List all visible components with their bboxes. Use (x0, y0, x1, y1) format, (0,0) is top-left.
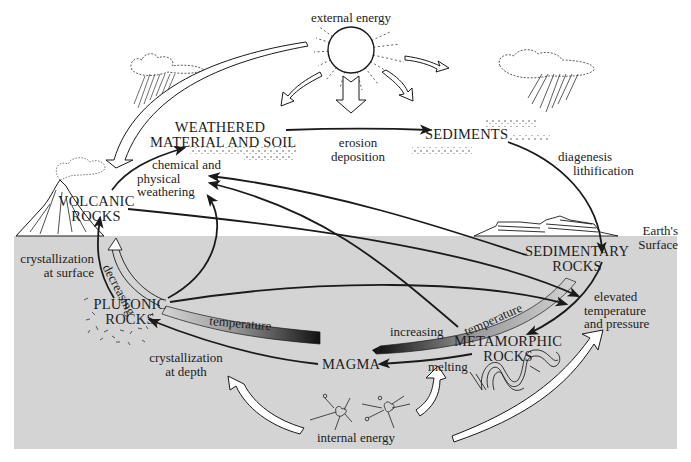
weathering-label-line3: weathering (137, 185, 221, 199)
cryst-depth-line2: at depth (140, 365, 232, 379)
diagenesis-label: diagenesis (558, 150, 634, 164)
node-sedimentary-rocks: SEDIMENTARY ROCKS (520, 244, 634, 274)
cryst-surface-line1: crystallization (12, 252, 94, 266)
node-plutonic-rocks: PLUTONIC ROCKS (92, 297, 168, 327)
plutonic-label-line1: PLUTONIC (92, 297, 168, 312)
elevated-line3: and pressure (584, 317, 649, 331)
diagenesis-lithification-label: diagenesis lithification (558, 150, 634, 177)
sun-arrow-far-right (405, 56, 449, 72)
crystallization-depth-label: crystallization at depth (140, 351, 232, 378)
elevated-conditions-label: elevated temperature and pressure (584, 290, 649, 331)
sedimentary-label-line2: ROCKS (520, 259, 634, 274)
weathering-label-line1: chemical and (137, 158, 221, 172)
sun-arrow-left (281, 72, 322, 106)
arrow-weathered-to-sediments (286, 129, 430, 131)
erosion-deposition-label: erosion deposition (318, 136, 398, 163)
lithification-label: lithification (558, 164, 634, 178)
increasing-label: increasing (390, 325, 443, 339)
weathered-label-line1: WEATHERED (150, 120, 290, 135)
weathering-label-line2: physical (137, 172, 221, 186)
sun-arrow-right (382, 70, 413, 101)
strata-icon (474, 216, 618, 236)
node-sediments: SEDIMENTS (425, 127, 508, 142)
sedimentary-label-line1: SEDIMENTARY (520, 244, 634, 259)
elevated-line2: temperature (584, 304, 649, 318)
crystallization-surface-label: crystallization at surface (12, 252, 94, 279)
sun-arrow-down (336, 76, 366, 113)
volcanic-label-line1: VOLCANIC (58, 194, 134, 209)
cloud-right-icon (499, 50, 594, 112)
earths-surface-line1: Earth's (620, 224, 678, 238)
node-weathered-material: WEATHERED MATERIAL AND SOIL (150, 120, 290, 150)
node-volcanic-rocks: VOLCANIC ROCKS (58, 194, 134, 224)
weathered-label-line2: MATERIAL AND SOIL (150, 135, 290, 150)
melting-label: melting (428, 360, 468, 374)
rock-cycle-diagram (0, 0, 691, 462)
internal-energy-label: internal energy (306, 431, 406, 445)
volcanic-label-line2: ROCKS (58, 209, 134, 224)
erosion-label: erosion (318, 136, 398, 150)
node-magma: MAGMA (322, 357, 380, 372)
plutonic-label-line2: ROCKS (92, 312, 168, 327)
cryst-surface-line2: at surface (12, 266, 94, 280)
cryst-depth-line1: crystallization (140, 351, 232, 365)
metamorphic-label-line1: METAMORPHIC (450, 334, 566, 349)
external-energy-label: external energy (300, 11, 402, 25)
deposition-label: deposition (318, 150, 398, 164)
elevated-line1: elevated (584, 290, 649, 304)
weathering-label: chemical and physical weathering (137, 158, 221, 199)
